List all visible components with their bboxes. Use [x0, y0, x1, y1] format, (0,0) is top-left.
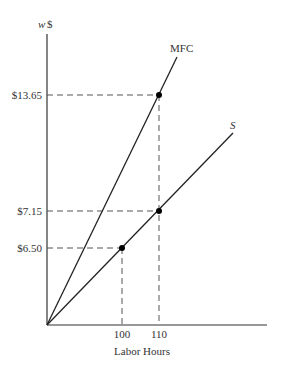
y-tick-650: $6.50	[17, 242, 42, 254]
x-tick-100: 100	[114, 328, 131, 340]
x-axis-label: Labor Hours	[114, 345, 170, 357]
point-mfc-110	[156, 92, 162, 98]
y-tick-715: $7.15	[17, 205, 42, 217]
x-tick-110: 110	[151, 328, 168, 340]
chart: w $ MFC S $13.65 $7.15 $6.50 100 110 Lab…	[0, 0, 281, 376]
point-s-110	[156, 208, 162, 214]
y-tick-1365: $13.65	[12, 89, 43, 101]
point-s-100	[119, 245, 125, 251]
y-axis-unit-label: $	[47, 18, 53, 30]
s-label: S	[230, 119, 236, 131]
y-axis-var-label: w	[38, 18, 46, 30]
mfc-label: MFC	[170, 42, 193, 54]
s-line	[47, 133, 233, 325]
